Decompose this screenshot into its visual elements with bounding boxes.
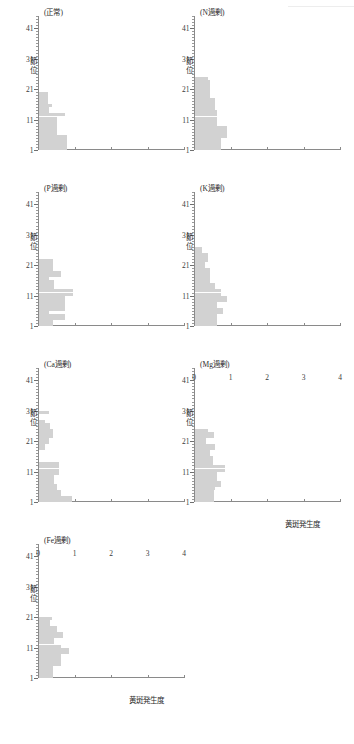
x-axis-tick bbox=[304, 499, 305, 502]
y-axis-tick-label: 1 bbox=[186, 146, 190, 155]
y-axis-tick-label: 41 bbox=[182, 376, 190, 385]
y-axis-tick bbox=[192, 25, 194, 26]
bar bbox=[195, 147, 221, 150]
y-axis-tick bbox=[190, 150, 194, 151]
y-axis-tick bbox=[36, 213, 38, 214]
bar bbox=[39, 484, 57, 487]
bar bbox=[39, 135, 67, 138]
bar bbox=[39, 638, 54, 641]
y-axis-title: 節 位 bbox=[29, 234, 38, 251]
bar bbox=[195, 441, 206, 444]
x-axis-title: 黄斑発生度 bbox=[129, 694, 164, 705]
y-axis-tick bbox=[36, 383, 38, 384]
y-axis-tick bbox=[34, 204, 38, 205]
x-axis-tick bbox=[340, 147, 341, 150]
bar bbox=[39, 469, 59, 472]
plot-area: 111213141 bbox=[38, 192, 184, 326]
x-axis-tick-label: 3 bbox=[302, 373, 306, 382]
bar bbox=[195, 459, 213, 462]
y-axis-tick bbox=[192, 219, 194, 220]
x-axis-tick bbox=[111, 323, 112, 326]
bar bbox=[195, 135, 227, 138]
y-axis-tick bbox=[192, 40, 194, 41]
y-axis-tick bbox=[36, 40, 38, 41]
bar bbox=[39, 299, 65, 302]
figure-panel-grid: (正常)111213141節 位(N過剰)111213141節 位(P過剰)11… bbox=[0, 0, 354, 744]
bar bbox=[39, 293, 74, 296]
x-axis-tick-label: 3 bbox=[146, 549, 150, 558]
x-axis-tick-label: 0 bbox=[36, 549, 40, 558]
bar bbox=[39, 411, 49, 414]
y-axis-tick bbox=[192, 402, 194, 403]
y-axis-tick bbox=[36, 371, 38, 372]
y-axis-tick bbox=[192, 398, 194, 399]
y-axis-tick bbox=[192, 222, 194, 223]
y-axis-tick bbox=[192, 405, 194, 406]
y-axis-title: 節 位 bbox=[29, 410, 38, 427]
bar bbox=[39, 660, 62, 663]
bar bbox=[39, 262, 54, 265]
y-axis-tick bbox=[190, 326, 194, 327]
y-axis-tick-label: 1 bbox=[30, 322, 34, 331]
x-axis-tick bbox=[148, 323, 149, 326]
bar bbox=[39, 110, 49, 113]
bar bbox=[195, 481, 221, 484]
y-axis-tick bbox=[36, 605, 38, 606]
y-axis-tick bbox=[192, 19, 194, 20]
bar bbox=[195, 132, 227, 135]
y-axis-title: 節 位 bbox=[29, 58, 38, 75]
bar bbox=[195, 453, 210, 456]
y-axis-tick-label: 1 bbox=[186, 322, 190, 331]
x-axis-tick bbox=[231, 323, 232, 326]
bar bbox=[195, 314, 218, 317]
y-axis-tick-label: 41 bbox=[26, 24, 34, 33]
y-axis-tick bbox=[36, 377, 38, 378]
y-axis-tick-label: 11 bbox=[182, 291, 189, 300]
bar bbox=[39, 268, 54, 271]
bar bbox=[39, 117, 57, 120]
y-axis-tick-label: 21 bbox=[182, 85, 190, 94]
y-axis-tick bbox=[36, 386, 38, 387]
bar bbox=[39, 277, 49, 280]
bar bbox=[195, 144, 221, 147]
y-axis-title: 節 位 bbox=[185, 234, 194, 251]
x-axis-tick bbox=[267, 147, 268, 150]
bar bbox=[195, 286, 215, 289]
bar bbox=[39, 438, 49, 441]
bar bbox=[39, 496, 73, 499]
x-axis-tick bbox=[267, 499, 268, 502]
y-axis-tick bbox=[36, 571, 38, 572]
bar bbox=[195, 499, 214, 502]
x-axis-tick bbox=[75, 147, 76, 150]
y-axis-tick bbox=[190, 265, 194, 266]
bar bbox=[39, 426, 50, 429]
bar bbox=[39, 107, 49, 110]
x-axis-tick-label: 2 bbox=[265, 373, 269, 382]
y-axis-tick bbox=[192, 198, 194, 199]
y-axis-tick bbox=[36, 50, 38, 51]
y-axis-tick bbox=[36, 611, 38, 612]
x-axis-tick bbox=[148, 499, 149, 502]
bar bbox=[195, 250, 202, 253]
y-axis-tick bbox=[36, 459, 38, 460]
y-axis-tick bbox=[36, 25, 38, 26]
x-axis-tick-label: 4 bbox=[338, 373, 342, 382]
plot-area: 11121314101234 bbox=[194, 368, 340, 502]
y-axis-tick bbox=[34, 296, 38, 297]
y-axis-tick bbox=[192, 16, 194, 17]
bar bbox=[39, 629, 57, 632]
bar bbox=[195, 86, 210, 89]
y-axis-tick bbox=[192, 371, 194, 372]
bar bbox=[195, 126, 227, 129]
bar bbox=[195, 484, 221, 487]
bar bbox=[195, 80, 210, 83]
bar bbox=[39, 271, 62, 274]
y-axis-tick bbox=[192, 216, 194, 217]
y-axis-tick bbox=[36, 256, 38, 257]
y-axis-tick bbox=[192, 192, 194, 193]
bar bbox=[39, 302, 65, 305]
y-axis-tick bbox=[36, 222, 38, 223]
x-axis-tick bbox=[75, 323, 76, 326]
bar bbox=[39, 499, 73, 502]
y-axis-tick bbox=[36, 559, 38, 560]
